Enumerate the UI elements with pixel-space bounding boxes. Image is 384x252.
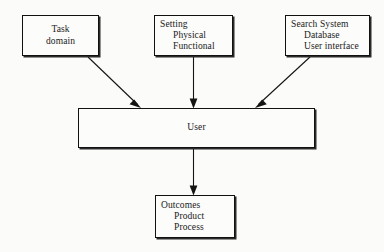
node-setting-line-2: Physical (160, 30, 232, 41)
node-outcomes-line-3: Process (161, 222, 234, 233)
node-user[interactable]: User (78, 108, 315, 148)
node-outcomes[interactable]: Outcomes Product Process (155, 195, 235, 238)
diagram-canvas: Task domain Setting Physical Functional … (0, 0, 384, 252)
node-search-system-line-3: User interface (291, 41, 369, 52)
node-search-system[interactable]: Search System Database User interface (285, 15, 370, 56)
edge-task-domain-to-user (88, 57, 141, 108)
node-setting-line-3: Functional (160, 41, 232, 52)
node-task-domain-line-2: domain (23, 36, 98, 47)
node-outcomes-line-2: Product (161, 211, 234, 222)
edge-search-system-to-user (255, 57, 310, 108)
edge-user-to-outcomes (190, 149, 198, 196)
node-outcomes-line-1: Outcomes (161, 200, 234, 211)
node-task-domain[interactable]: Task domain (22, 15, 99, 56)
node-user-line-1: User (79, 122, 314, 133)
node-search-system-line-1: Search System (291, 19, 369, 30)
node-task-domain-line-1: Task (23, 24, 98, 35)
node-setting-line-1: Setting (160, 19, 232, 30)
node-setting[interactable]: Setting Physical Functional (154, 15, 233, 56)
edge-setting-to-user (190, 57, 198, 109)
node-search-system-line-2: Database (291, 30, 369, 41)
